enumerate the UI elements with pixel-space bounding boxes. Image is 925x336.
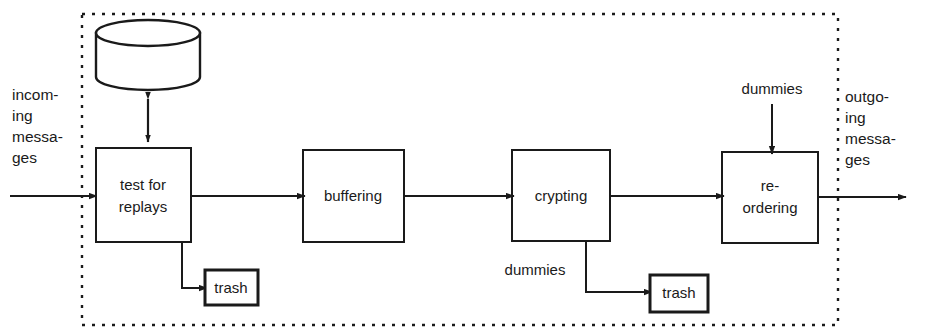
node-label-line-1: re- [761,177,779,194]
edge-label-dummies-out: dummies [505,261,566,278]
sink-trash-dummies-label: trash [662,284,695,301]
edge-label-dummies-in: dummies [742,80,803,97]
outgoing-label-line-4: ges [845,151,870,168]
incoming-label-line-4: ges [12,149,37,166]
incoming-label-line-2: ing [12,107,33,124]
sink-trash-replays-label: trash [214,279,247,296]
incoming-messages-label: incom- ing messa- ges [12,86,63,166]
outgoing-label-line-1: outgo- [845,88,889,105]
edge-replays-to-trash [182,242,207,288]
node-label-line-1: test for [120,176,166,193]
node-buffering-label: buffering [324,187,382,204]
diagram-canvas: incom- ing messa- ges outgo- ing messa- … [0,0,925,336]
incoming-label-line-1: incom- [12,86,59,103]
node-test-for-replays [96,148,191,242]
node-label-line-2: replays [119,198,167,215]
node-label-line-2: ordering [742,199,797,216]
mix-node-diagram: incom- ing messa- ges outgo- ing messa- … [0,0,925,336]
outgoing-label-line-2: ing [845,109,866,126]
edge-crypting-to-trash [586,241,652,292]
node-crypting-label: crypting [535,187,588,204]
replay-database-store [96,20,200,90]
node-re-ordering [722,152,818,243]
incoming-label-line-3: messa- [12,128,63,145]
outgoing-label-line-3: messa- [845,130,896,147]
outgoing-messages-label: outgo- ing messa- ges [845,88,896,168]
